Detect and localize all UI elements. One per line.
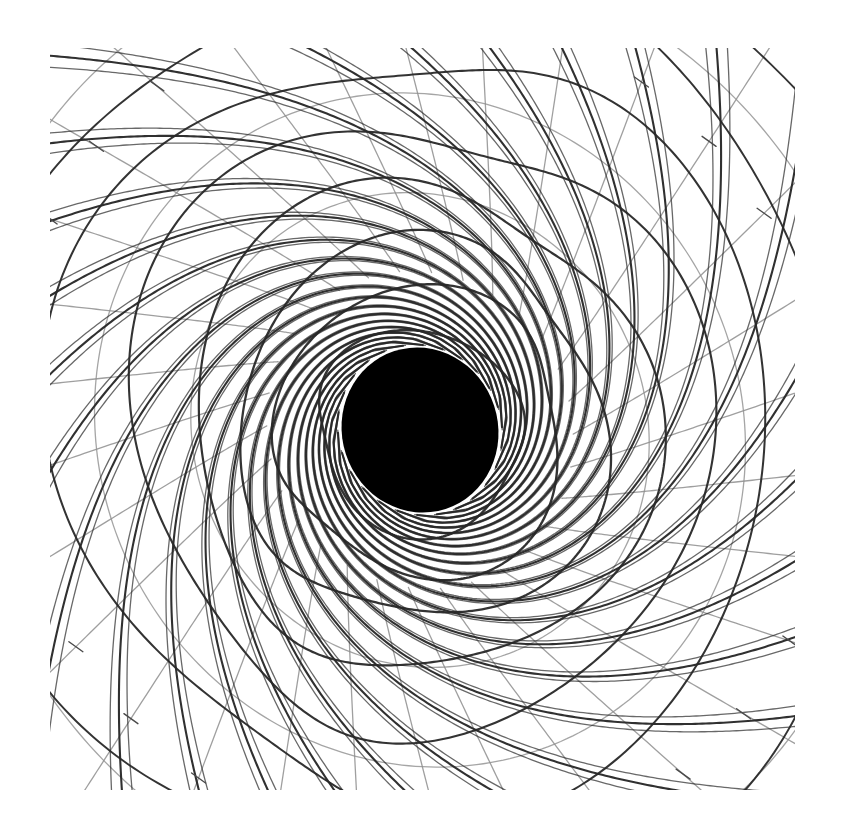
lensing-figure	[0, 0, 844, 835]
gravitational-lensing-canvas	[0, 0, 844, 835]
